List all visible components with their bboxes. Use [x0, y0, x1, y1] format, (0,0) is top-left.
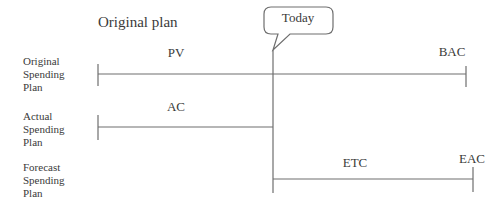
row-label-line: Spending — [23, 174, 65, 187]
row-label-line: Original — [23, 55, 65, 68]
row-label-line: Spending — [23, 68, 65, 81]
today-callout-label: Today — [282, 10, 314, 26]
eac-label: EAC — [459, 151, 485, 167]
ac-label: AC — [167, 99, 185, 115]
etc-label: ETC — [343, 155, 368, 171]
diagram-title: Original plan — [98, 14, 178, 31]
row-label-line: Plan — [23, 136, 65, 149]
pv-label: PV — [168, 45, 185, 61]
bac-label: BAC — [439, 44, 466, 60]
row-label-actual: Actual Spending Plan — [23, 110, 65, 149]
diagram-lines — [0, 0, 501, 204]
row-label-line: Forecast — [23, 161, 65, 174]
row-label-original: Original Spending Plan — [23, 55, 65, 94]
row-label-line: Plan — [23, 187, 65, 200]
row-label-line: Spending — [23, 123, 65, 136]
row-label-line: Actual — [23, 110, 65, 123]
row-label-line: Plan — [23, 81, 65, 94]
row-label-forecast: Forecast Spending Plan — [23, 161, 65, 200]
